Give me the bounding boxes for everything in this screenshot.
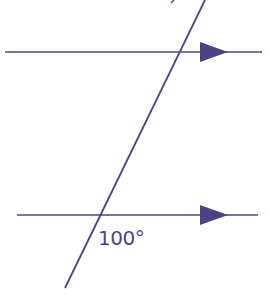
top-arrow-icon [200,42,228,62]
cropped-mark [171,0,174,3]
angle-label: 100° [98,226,144,250]
bottom-arrow-icon [200,205,228,225]
diagram-canvas [0,0,270,302]
